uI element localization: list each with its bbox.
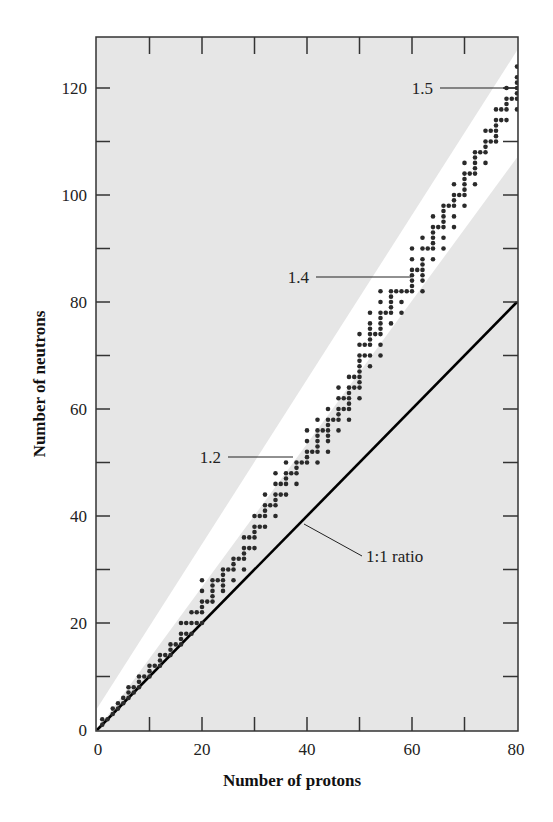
data-point xyxy=(368,353,373,358)
data-point xyxy=(116,701,121,706)
data-point xyxy=(352,375,357,380)
data-point xyxy=(221,573,226,578)
data-point xyxy=(441,225,446,230)
data-point xyxy=(221,578,226,583)
data-point xyxy=(205,599,210,604)
data-point xyxy=(189,631,194,636)
data-point xyxy=(478,150,483,155)
data-point xyxy=(142,674,147,679)
data-point xyxy=(389,300,394,305)
data-point xyxy=(278,492,283,497)
data-point xyxy=(263,514,268,519)
y-tick-label: 60 xyxy=(70,400,87,419)
y-tick-label: 100 xyxy=(62,186,88,205)
data-point xyxy=(357,353,362,358)
data-point xyxy=(158,653,163,658)
data-point xyxy=(184,621,189,626)
data-point xyxy=(121,696,126,701)
data-point xyxy=(147,669,152,674)
data-point xyxy=(284,492,289,497)
data-point xyxy=(504,118,509,123)
data-point xyxy=(252,514,257,519)
data-point xyxy=(116,706,121,711)
data-point xyxy=(336,412,341,417)
data-point xyxy=(494,134,499,139)
data-point xyxy=(273,482,278,487)
data-point xyxy=(483,139,488,144)
data-point xyxy=(278,482,283,487)
data-point xyxy=(504,107,509,112)
data-point xyxy=(378,316,383,321)
y-tick-label: 0 xyxy=(79,721,88,740)
data-point xyxy=(462,203,467,208)
annotation-1-1-ratio: 1:1 ratio xyxy=(366,547,423,566)
data-point xyxy=(200,610,205,615)
data-point xyxy=(420,246,425,251)
data-point xyxy=(499,107,504,112)
data-point xyxy=(441,203,446,208)
data-point xyxy=(357,343,362,348)
data-point xyxy=(263,503,268,508)
data-point xyxy=(315,439,320,444)
data-point xyxy=(152,664,157,669)
data-point xyxy=(194,621,199,626)
data-point xyxy=(462,187,467,192)
data-point xyxy=(509,96,514,101)
data-point xyxy=(499,118,504,123)
data-point xyxy=(189,610,194,615)
data-point xyxy=(410,257,415,262)
data-point xyxy=(284,476,289,481)
data-point xyxy=(179,621,184,626)
data-point xyxy=(347,407,352,412)
data-point xyxy=(137,680,142,685)
x-axis-title: Number of protons xyxy=(223,771,362,790)
data-point xyxy=(462,161,467,166)
y-tick-label: 120 xyxy=(62,79,88,98)
data-point xyxy=(147,674,152,679)
data-point xyxy=(200,621,205,626)
data-point xyxy=(284,482,289,487)
data-point xyxy=(488,129,493,134)
neutron-proton-chart: 0 20 40 60 80 100 120 0 20 40 60 80 Numb… xyxy=(0,0,553,822)
data-point xyxy=(431,230,436,235)
data-point xyxy=(389,321,394,326)
data-point xyxy=(399,310,404,315)
data-point xyxy=(284,471,289,476)
data-point xyxy=(221,583,226,588)
data-point xyxy=(368,364,373,369)
data-point xyxy=(168,642,173,647)
data-point xyxy=(452,214,457,219)
data-point xyxy=(357,385,362,390)
data-point xyxy=(200,578,205,583)
data-point xyxy=(305,460,310,465)
x-tick-label: 40 xyxy=(299,740,316,759)
data-point xyxy=(410,278,415,283)
data-point xyxy=(473,161,478,166)
data-point xyxy=(483,161,488,166)
data-point xyxy=(347,391,352,396)
data-point xyxy=(378,353,383,358)
data-point xyxy=(326,428,331,433)
data-point xyxy=(194,610,199,615)
data-point xyxy=(126,690,131,695)
data-point xyxy=(494,118,499,123)
data-point xyxy=(410,289,415,294)
data-point xyxy=(483,150,488,155)
data-point xyxy=(147,664,152,669)
data-point xyxy=(179,642,184,647)
data-point xyxy=(473,166,478,171)
data-point xyxy=(425,246,430,251)
data-point xyxy=(473,150,478,155)
data-point xyxy=(473,171,478,176)
data-point xyxy=(131,685,136,690)
x-tick-label: 20 xyxy=(194,740,211,759)
data-point xyxy=(504,102,509,107)
data-point xyxy=(200,605,205,610)
data-point xyxy=(452,193,457,198)
data-point xyxy=(336,417,341,422)
data-point xyxy=(441,219,446,224)
data-point xyxy=(257,514,262,519)
data-point xyxy=(462,171,467,176)
data-point xyxy=(326,423,331,428)
data-point xyxy=(315,417,320,422)
